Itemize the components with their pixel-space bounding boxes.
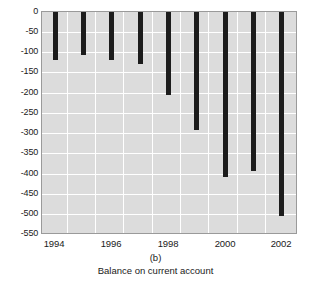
x-axis: 1994 1996 1998 2000 2002 — [41, 238, 297, 252]
gridline-vertical — [265, 12, 266, 233]
x-tick-label: 1996 — [94, 238, 128, 249]
gridline-horizontal — [42, 174, 296, 175]
x-tick-label: 1998 — [151, 238, 185, 249]
bar-2002 — [279, 12, 284, 216]
y-tick-label: -450 — [0, 189, 38, 198]
gridline-horizontal — [42, 153, 296, 154]
y-tick-label: -250 — [0, 108, 38, 117]
gridline-horizontal — [42, 214, 296, 215]
bar-2001 — [251, 12, 256, 171]
gridline-vertical — [180, 12, 181, 233]
y-tick-label: -50 — [0, 27, 38, 36]
gridline-vertical — [123, 12, 124, 233]
y-tick-label: -400 — [0, 169, 38, 178]
gridline-horizontal — [42, 194, 296, 195]
y-tick-label: -350 — [0, 148, 38, 157]
x-tick-label: 2002 — [264, 238, 298, 249]
y-tick-label: -500 — [0, 209, 38, 218]
x-tick-label: 1994 — [37, 238, 71, 249]
bar-1997 — [138, 12, 143, 64]
y-tick-label: -150 — [0, 67, 38, 76]
gridline-vertical — [152, 12, 153, 233]
chart-caption: Balance on current account — [0, 265, 311, 277]
panel-label: (b) — [0, 252, 311, 264]
gridline-vertical — [95, 12, 96, 233]
y-tick-label: -100 — [0, 47, 38, 56]
x-tick-label: 2000 — [208, 238, 242, 249]
gridline-vertical — [67, 12, 68, 233]
y-axis: 0 -50 -100 -150 -200 -250 -300 -350 -400… — [0, 0, 38, 281]
y-tick-label: 0 — [0, 7, 38, 16]
gridline-vertical — [208, 12, 209, 233]
figure-panel-b: 0 -50 -100 -150 -200 -250 -300 -350 -400… — [0, 0, 311, 281]
plot-area — [41, 11, 297, 234]
gridline-vertical — [237, 12, 238, 233]
bar-1996 — [109, 12, 114, 60]
bar-2000 — [223, 12, 228, 177]
bar-1998 — [166, 12, 171, 95]
bar-1994 — [53, 12, 58, 60]
gridline-horizontal — [42, 113, 296, 114]
gridline-horizontal — [42, 133, 296, 134]
bar-1995 — [81, 12, 86, 55]
bar-1999 — [194, 12, 199, 130]
y-tick-label: -550 — [0, 229, 38, 238]
y-tick-label: -200 — [0, 88, 38, 97]
y-tick-label: -300 — [0, 128, 38, 137]
